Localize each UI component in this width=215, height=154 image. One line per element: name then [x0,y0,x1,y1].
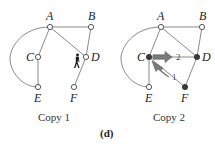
node-C [35,54,40,59]
edge-D-F [185,57,197,87]
figure-label: (d) [100,127,114,140]
node-label-A: A [45,9,54,23]
walking-person-icon [74,54,80,68]
node-E [146,84,151,89]
node-C [146,54,151,59]
arrow-F-to-C [152,61,169,77]
node-D [83,54,88,59]
node-A [47,24,52,29]
node-label-C: C [26,50,35,64]
node-label-E: E [33,91,42,105]
graph-figure: A B C D E F Copy 1 2 1 A [0,0,215,154]
node-label-F: F [180,91,189,105]
edge-A-C [149,27,161,57]
copy2-graph: 2 1 A B C D E F Copy 2 [121,9,211,123]
node-label-D: D [201,50,211,64]
node-label-B: B [199,9,207,23]
node-B [88,24,93,29]
node-F [182,84,187,89]
node-label-D: D [90,50,100,64]
node-D [194,54,199,59]
node-F [71,84,76,89]
node-label-A: A [156,9,165,23]
node-label-E: E [144,91,153,105]
copy2-caption: Copy 2 [153,111,185,123]
copy1-graph: A B C D E F Copy 1 [10,9,100,123]
edge-A-C [38,27,50,57]
arrow-C-to-D [153,52,172,63]
node-A [158,24,163,29]
node-B [199,24,204,29]
node-label-F: F [69,91,78,105]
node-label-C: C [137,50,146,64]
copy1-caption: Copy 1 [38,111,70,123]
node-E [35,84,40,89]
node-label-B: B [88,9,96,23]
arrow-label-2: 2 [176,52,181,62]
arrow-label-1: 1 [172,72,177,82]
edge-A-D [50,27,86,57]
